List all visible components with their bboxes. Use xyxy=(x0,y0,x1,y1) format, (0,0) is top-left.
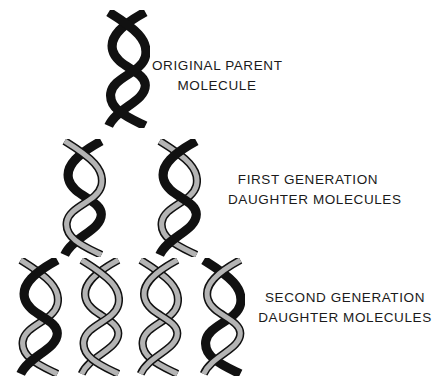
first-gen-molecule-1-helix xyxy=(60,139,106,257)
second-gen-molecule-3-helix xyxy=(136,258,182,376)
parent-label: ORIGINAL PARENT MOLECULE xyxy=(152,56,282,96)
parent-molecule-helix xyxy=(104,10,150,128)
second-gen-molecule-1-helix xyxy=(16,258,62,376)
parent-label-line1: ORIGINAL PARENT xyxy=(152,56,282,76)
second-gen-label-line1: SECOND GENERATION xyxy=(252,288,438,308)
first-gen-molecule-2-helix xyxy=(155,139,201,257)
parent-label-line2: MOLECULE xyxy=(152,76,282,96)
first-gen-label-line1: FIRST GENERATION xyxy=(228,170,388,190)
first-gen-label-line2: DAUGHTER MOLECULES xyxy=(228,190,388,210)
second-gen-label: SECOND GENERATION DAUGHTER MOLECULES xyxy=(252,288,438,328)
first-gen-label: FIRST GENERATION DAUGHTER MOLECULES xyxy=(228,170,388,210)
second-gen-molecule-2-helix xyxy=(77,258,123,376)
second-gen-molecule-4-helix xyxy=(199,258,245,376)
second-gen-label-line2: DAUGHTER MOLECULES xyxy=(252,308,438,328)
